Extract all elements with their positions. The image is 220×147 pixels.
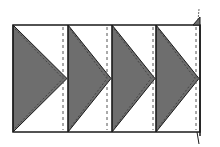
quilt-diagram — [0, 0, 220, 147]
bottom-right-tail — [197, 132, 199, 144]
goose-blocks — [13, 25, 200, 132]
flying-geese-strip — [0, 0, 220, 147]
top-right-tab — [193, 17, 200, 25]
